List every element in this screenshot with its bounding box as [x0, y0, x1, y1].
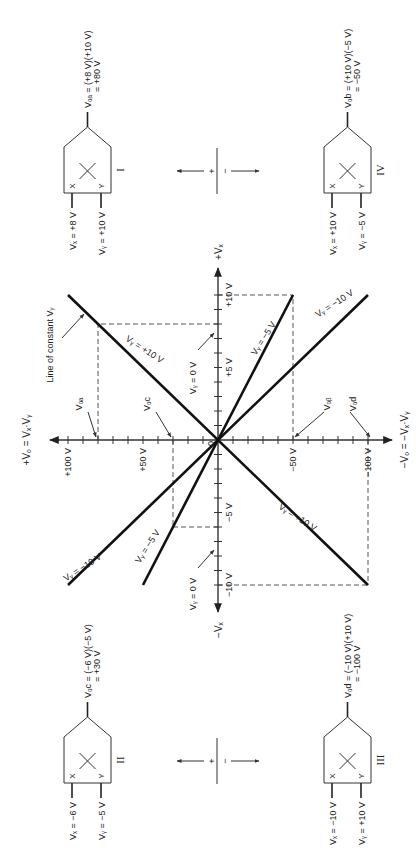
vx-tick-label: −5 V	[224, 503, 234, 522]
output-result: = −50 V	[352, 60, 362, 92]
vo-tick-label: −50 V	[288, 448, 298, 472]
operating-point-pointer	[295, 412, 324, 437]
x-pin-label: X	[68, 773, 77, 779]
multiplier-id-label: IV	[374, 164, 386, 176]
operating-point-pointer	[350, 412, 370, 437]
vy-zero-pointer-lower	[198, 550, 214, 568]
vy-plus10-label-upper: Vᵧ = +10 V	[124, 334, 165, 366]
vx-input-value: Vₓ = +8 V	[68, 212, 78, 250]
output-result: = +80 V	[92, 60, 102, 92]
vo-tick-label: +100 V	[63, 448, 73, 477]
multiplier-quadrant-diagram: +100 V+50 V−50 V−100 V+10 V+5 V−5 V−10 V…	[0, 0, 416, 860]
vy-input-value: Vᵧ = −5 V	[357, 212, 367, 250]
vo-negative-axis-label: −Vₒ = −Vₓ·Vᵧ	[399, 411, 410, 468]
vx-input-value: Vₓ = −6 V	[68, 802, 78, 840]
transfer-graph: +100 V+50 V−50 V−100 V+10 V+5 V−5 V−10 V…	[21, 243, 410, 638]
vx-tick-label: +5 V	[224, 358, 234, 377]
plus-sign: +	[207, 168, 217, 173]
vx-input-value: Vₓ = −10 V	[328, 802, 338, 845]
x-pin-label: X	[328, 183, 337, 189]
vx-tick-label: +10 V	[224, 283, 234, 307]
multiply-x-icon	[340, 753, 356, 769]
vy-zero-pointer-upper	[198, 333, 214, 350]
multiplier-id-label: III	[374, 754, 386, 765]
vy-input-value: Vᵧ = +10 V	[97, 212, 107, 255]
operating-point-pointer	[156, 412, 171, 437]
multiplier-IV: XYVₓ = +10 VVᵧ = −5 VVₒb = (+10 V)(−5 V)…	[324, 29, 386, 255]
vx-negative-axis-label: −Vₓ	[213, 621, 224, 638]
multiplier-body	[324, 717, 371, 783]
vx-tick-label: −10 V	[224, 573, 234, 597]
origin-label: 0	[206, 441, 216, 446]
operating-point-label-Voa: Vₒₐ	[74, 397, 84, 410]
y-pin-label: Y	[357, 773, 366, 779]
vy-input-value: Vᵧ = −5 V	[97, 802, 107, 840]
vx-input-value: Vₓ = +10 V	[328, 212, 338, 255]
multiplier-III: XYVₓ = −10 VVᵧ = +10 VVₒd = (−10 V)(+10 …	[324, 614, 386, 845]
constant-vy-pointer	[62, 314, 84, 338]
y-pin-label: Y	[357, 183, 366, 189]
y-pin-label: Y	[97, 183, 106, 189]
polarity-indicator: +−	[177, 148, 259, 194]
vy-plus10-label-lower: Vᵧ = +10 V	[277, 502, 318, 534]
vo-tick-label: −100 V	[363, 448, 373, 477]
operating-point-pointer	[88, 412, 96, 437]
output-result: = −100 V	[352, 645, 362, 682]
multiply-x-icon	[80, 753, 96, 769]
vo-tick-label: +50 V	[138, 448, 148, 472]
vx-positive-axis-label: +Vₓ	[213, 243, 224, 260]
x-pin-label: X	[68, 183, 77, 189]
constant-vy-label: Line of constant Vᵧ	[45, 307, 55, 382]
vy-input-value: Vᵧ = +10 V	[357, 802, 367, 845]
vy-minus10-label-lower: Vᵧ = −10 V	[62, 552, 103, 584]
multiplier-id-label: I	[114, 168, 126, 172]
vy-zero-label-lower: Vᵧ = 0 V	[188, 578, 198, 611]
vo-positive-axis-label: +Vₒ = Vₓ·Vᵧ	[21, 414, 32, 466]
operating-point-label-Voc: Vₒc	[142, 397, 152, 411]
multiplier-id-label: II	[114, 756, 126, 764]
multiplier-II: XYVₓ = −6 VVᵧ = −5 VVₒc = (−6 V)(−5 V)= …	[64, 624, 126, 840]
x-pin-label: X	[328, 773, 337, 779]
multiplier-body	[324, 127, 371, 193]
minus-sign: −	[220, 168, 230, 173]
multiplier-I: XYVₓ = +8 VVᵧ = +10 VVₒₐ = (+8 V)(+10 V)…	[64, 30, 126, 254]
output-result: = +30 V	[92, 650, 102, 682]
multiplier-body	[64, 717, 111, 783]
minus-sign: −	[220, 758, 230, 763]
y-pin-label: Y	[97, 773, 106, 779]
operating-point-label-Vob: Vₒᵦ	[322, 397, 332, 410]
multiply-x-icon	[80, 163, 96, 179]
vy-zero-label-upper: Vᵧ = 0 V	[188, 362, 198, 395]
polarity-indicator: +−	[177, 738, 259, 784]
multiplier-body	[64, 127, 111, 193]
multiply-x-icon	[340, 163, 356, 179]
operating-point-label-Vod: Vₒd	[348, 397, 358, 411]
plus-sign: +	[207, 758, 217, 763]
